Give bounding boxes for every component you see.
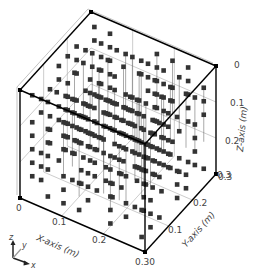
- y-tick-1: 0.1: [168, 225, 182, 235]
- z-axis-label: Z-axis (m): [235, 106, 249, 153]
- y-tick-2: 0.2: [193, 198, 207, 208]
- x-tick-3: 0.30: [135, 257, 155, 267]
- 3d-scatter-plot: 0 0.1 0.2 0.30 0.1 0.2 0.3 0 0.1 0.2 0.3…: [0, 0, 254, 275]
- triad-x-label: x: [30, 261, 36, 270]
- triad-y-label: y: [21, 241, 27, 250]
- x-tick-1: 0.1: [52, 217, 66, 227]
- z-tick-0: 0: [234, 60, 240, 70]
- x-axis-label: X-axis (m): [34, 232, 81, 259]
- axis-triad-icon: z y x: [8, 233, 36, 270]
- x-tick-2: 0.2: [92, 235, 106, 245]
- triad-z-label: z: [8, 233, 14, 242]
- z-tick-3: 0.3: [218, 172, 232, 182]
- y-axis-label: Y-axis (m): [180, 210, 217, 250]
- x-tick-0: 0: [16, 203, 22, 213]
